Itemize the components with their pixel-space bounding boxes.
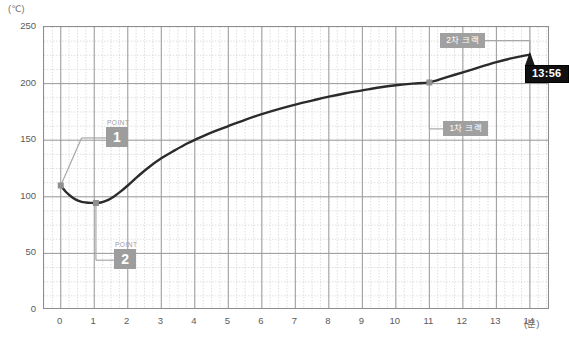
x-tick-7: 7: [282, 316, 306, 326]
x-tick-5: 5: [215, 316, 239, 326]
y-tick-100: 100: [2, 191, 36, 201]
point-1-badge: 1: [106, 127, 128, 147]
elapsed-time-badge: 13:56: [525, 65, 569, 83]
x-tick-6: 6: [249, 316, 273, 326]
x-tick-2: 2: [115, 316, 139, 326]
y-tick-50: 50: [2, 247, 36, 257]
x-tick-11: 11: [416, 316, 440, 326]
x-axis-unit-label: (분): [524, 316, 539, 330]
y-tick-250: 250: [2, 21, 36, 31]
x-tick-8: 8: [316, 316, 340, 326]
x-tick-12: 12: [450, 316, 474, 326]
x-tick-1: 1: [81, 316, 105, 326]
x-tick-4: 4: [182, 316, 206, 326]
point-2-caption: POINT: [115, 241, 137, 248]
y-axis-unit-label: (℃): [8, 4, 25, 14]
second-crack-label: 2차 크랙: [440, 33, 485, 48]
first-crack-label: 1차 크랙: [443, 121, 488, 136]
x-tick-10: 10: [383, 316, 407, 326]
x-tick-3: 3: [148, 316, 172, 326]
y-tick-200: 200: [2, 78, 36, 88]
point-1-caption: POINT: [107, 119, 129, 126]
x-tick-13: 13: [483, 316, 507, 326]
y-tick-0: 0: [2, 304, 36, 314]
x-tick-9: 9: [349, 316, 373, 326]
y-tick-150: 150: [2, 134, 36, 144]
x-tick-0: 0: [48, 316, 72, 326]
point-2-badge: 2: [114, 249, 136, 269]
